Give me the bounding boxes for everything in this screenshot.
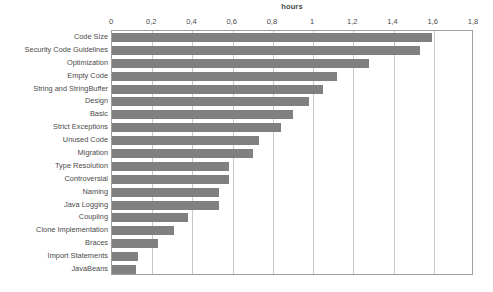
category-label: Design	[0, 96, 108, 105]
gridline	[434, 31, 435, 274]
bar	[112, 265, 136, 274]
x-tick-label: 0,6	[226, 17, 236, 26]
bar	[112, 123, 281, 132]
bar	[112, 201, 219, 210]
x-tick-label: 0	[109, 17, 113, 26]
category-label: Coupling	[0, 212, 108, 221]
chart-title: hours	[111, 2, 473, 11]
category-label: Strict Exceptions	[0, 122, 108, 131]
bar	[112, 136, 259, 145]
bar	[112, 59, 369, 68]
bar	[112, 162, 229, 171]
category-label: Naming	[0, 187, 108, 196]
bar	[112, 46, 420, 55]
x-tick-label: 0,2	[146, 17, 156, 26]
bar-chart: hours 00,20,40,60,811,21,41,61,8 Code Si…	[0, 0, 493, 292]
x-tick-label: 1,8	[468, 17, 478, 26]
bar	[112, 188, 219, 197]
category-label: Import Statements	[0, 251, 108, 260]
category-label: JavaBeans	[0, 264, 108, 273]
category-label: String and StringBuffer	[0, 84, 108, 93]
category-label: Code Size	[0, 32, 108, 41]
x-tick-label: 1,6	[428, 17, 438, 26]
bar	[112, 149, 253, 158]
y-axis-category-labels: Code SizeSecurity Code GuidelinesOptimiz…	[0, 30, 108, 275]
bar	[112, 239, 158, 248]
category-label: Type Resolution	[0, 161, 108, 170]
category-label: Unused Code	[0, 135, 108, 144]
category-label: Java Logging	[0, 200, 108, 209]
x-tick-label: 1,4	[387, 17, 397, 26]
bar	[112, 85, 323, 94]
x-axis-tick-labels: 00,20,40,60,811,21,41,61,8	[0, 17, 493, 28]
bar	[112, 33, 432, 42]
category-label: Controversial	[0, 174, 108, 183]
bar	[112, 175, 229, 184]
bar	[112, 72, 337, 81]
category-label: Security Code Guidelines	[0, 45, 108, 54]
bar	[112, 110, 293, 119]
category-label: Empty Code	[0, 71, 108, 80]
bar	[112, 97, 309, 106]
category-label: Migration	[0, 148, 108, 157]
category-label: Optimization	[0, 58, 108, 67]
x-tick-label: 0,8	[267, 17, 277, 26]
x-tick-label: 1,2	[347, 17, 357, 26]
category-label: Braces	[0, 238, 108, 247]
x-tick-label: 1	[310, 17, 314, 26]
gridline	[394, 31, 395, 274]
bar	[112, 252, 138, 261]
x-tick-label: 0,4	[186, 17, 196, 26]
category-label: Clone Implementation	[0, 225, 108, 234]
bar	[112, 213, 188, 222]
plot-area	[111, 30, 473, 275]
bar	[112, 226, 174, 235]
category-label: Basic	[0, 109, 108, 118]
